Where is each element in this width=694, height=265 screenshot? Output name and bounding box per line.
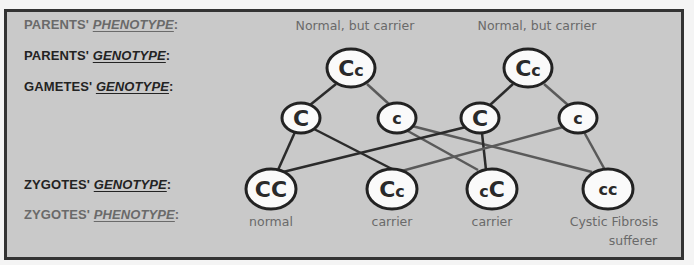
svg-text:CC: CC: [255, 177, 287, 202]
gamete-3-node: C: [461, 103, 499, 133]
parent-1-phenotype: Normal, but carrier: [296, 18, 416, 33]
inheritance-diagram: Normal, but carrier Normal, but carrier …: [0, 0, 694, 265]
zygote-3-phenotype: carrier: [472, 214, 514, 229]
allele-recessive: c: [354, 61, 363, 80]
gamete-4-node: c: [559, 103, 597, 133]
line-g1-z1: [278, 132, 295, 170]
allele-dominant: C: [515, 56, 531, 81]
svg-text:C: C: [293, 106, 309, 131]
parent-2-phenotype: Normal, but carrier: [478, 18, 598, 33]
parent-2-node: Cc: [504, 49, 552, 87]
svg-text:c: c: [392, 109, 401, 128]
parent-1-node: Cc: [327, 49, 375, 87]
zygote-4-phenotype-line2: sufferer: [609, 233, 658, 248]
zygote-3-node: cC: [467, 169, 517, 209]
line-g4-z4: [584, 132, 605, 170]
line-g2-z3: [406, 130, 478, 170]
gamete-1-node: C: [282, 103, 320, 133]
line-p2-g4: [544, 84, 568, 105]
zygote-1-node: CC: [246, 169, 296, 209]
zygote-1-phenotype: normal: [249, 214, 293, 229]
gamete-zygote-lines: [278, 126, 605, 172]
svg-text:c: c: [573, 109, 582, 128]
zygote-4-phenotype-line1: Cystic Fibrosis: [570, 214, 659, 229]
zygote-4-node: cc: [583, 169, 633, 209]
line-p1-g2: [367, 84, 390, 105]
line-p1-g1: [310, 84, 336, 105]
line-p2-g3: [490, 84, 513, 105]
zygote-2-node: Cc: [367, 169, 417, 209]
gamete-2-node: c: [378, 103, 416, 133]
zygote-2-phenotype: carrier: [372, 214, 414, 229]
svg-text:cc: cc: [599, 180, 618, 199]
line-g3-z3: [482, 133, 486, 170]
allele-recessive: c: [531, 61, 540, 80]
line-g1-z2: [314, 129, 394, 170]
svg-text:C: C: [472, 106, 488, 131]
allele-dominant: C: [338, 56, 354, 81]
